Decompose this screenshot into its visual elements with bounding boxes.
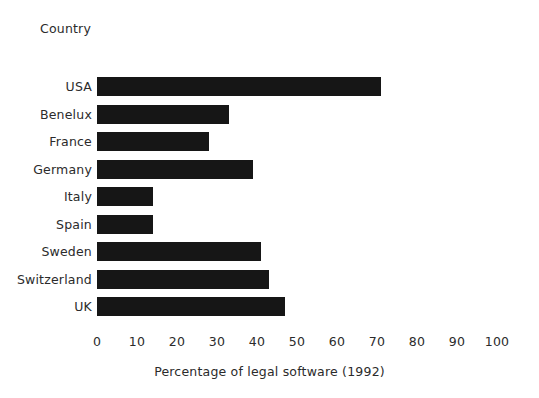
category-label-slot: Spain <box>0 215 92 234</box>
category-label: UK <box>0 297 92 316</box>
x-axis-title: Percentage of legal software (1992) <box>0 364 539 379</box>
bar <box>97 160 253 179</box>
bar-chart: Country USABeneluxFranceGermanyItalySpai… <box>0 0 539 398</box>
bar <box>97 132 209 151</box>
country-axis-heading: Country <box>40 21 91 36</box>
category-label-slot: Italy <box>0 187 92 206</box>
category-label: Germany <box>0 160 92 179</box>
bar-row <box>97 187 497 215</box>
category-label: Spain <box>0 215 92 234</box>
bar-row <box>97 215 497 243</box>
bar-row <box>97 270 497 298</box>
bar <box>97 297 285 316</box>
category-label: Italy <box>0 187 92 206</box>
bar-row <box>97 297 497 325</box>
plot-area <box>97 77 497 319</box>
x-axis-ticks: 0102030405060708090100 <box>97 334 497 352</box>
bar <box>97 105 229 124</box>
category-label-slot: USA <box>0 77 92 96</box>
category-label-slot: UK <box>0 297 92 316</box>
category-label-axis: USABeneluxFranceGermanyItalySpainSwedenS… <box>0 77 92 327</box>
category-label-slot: Benelux <box>0 105 92 124</box>
category-label: Benelux <box>0 105 92 124</box>
bar <box>97 242 261 261</box>
category-label-slot: Switzerland <box>0 270 92 289</box>
category-label: Sweden <box>0 242 92 261</box>
x-tick-label: 100 <box>467 334 527 349</box>
bar-row <box>97 160 497 188</box>
category-label-slot: Germany <box>0 160 92 179</box>
bar <box>97 187 153 206</box>
bar <box>97 77 381 96</box>
bar-row <box>97 77 497 105</box>
bar-row <box>97 105 497 133</box>
bar <box>97 215 153 234</box>
category-label: France <box>0 132 92 151</box>
category-label: Switzerland <box>0 270 92 289</box>
bar-row <box>97 132 497 160</box>
category-label-slot: Sweden <box>0 242 92 261</box>
bar-row <box>97 242 497 270</box>
category-label: USA <box>0 77 92 96</box>
bar <box>97 270 269 289</box>
category-label-slot: France <box>0 132 92 151</box>
